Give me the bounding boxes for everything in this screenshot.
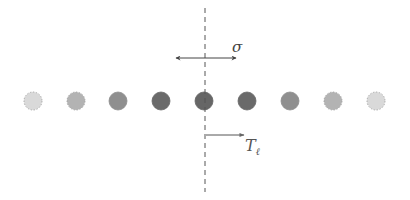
lattice-point-7 xyxy=(281,92,299,110)
lattice-point-9 xyxy=(367,92,385,110)
translation-label: Tℓ xyxy=(245,136,260,157)
lattice-point-5 xyxy=(195,92,213,110)
translation-label-sub: ℓ xyxy=(256,146,260,157)
translation-label-main: T xyxy=(245,136,256,155)
lattice-point-1 xyxy=(24,92,42,110)
lattice-point-4 xyxy=(152,92,170,110)
sigma-label: σ xyxy=(232,38,242,56)
lattice-point-3 xyxy=(109,92,127,110)
lattice-point-2 xyxy=(67,92,85,110)
diagram-canvas xyxy=(0,0,410,200)
lattice-point-6 xyxy=(238,92,256,110)
lattice-point-8 xyxy=(324,92,342,110)
